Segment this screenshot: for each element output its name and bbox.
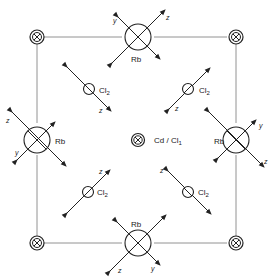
rb-top-label: Rb <box>131 55 142 64</box>
cl2-upper-right-z-label: z <box>174 105 179 112</box>
cl2-lower-right-z-label: z <box>159 167 164 174</box>
cl2-upper-left-label: Cl2 <box>99 86 111 96</box>
corner-atom-top-right <box>229 30 243 44</box>
rb-bottom-z-label: z <box>117 267 122 274</box>
cl2-upper-right-label: Cl2 <box>199 86 211 96</box>
rb-right-z-label: z <box>263 158 268 165</box>
cl2-upper-left-z-label: z <box>98 107 103 114</box>
rb-left-y-label: y <box>14 149 19 157</box>
rb-left-z-label: z <box>5 117 10 124</box>
crystal-diagram: Cd / Cl1 y z Rb Rb z y z y Rb Rb y z <box>0 0 272 280</box>
rb-top-z-label: z <box>165 14 170 21</box>
corner-atom-bottom-right <box>229 236 243 250</box>
center-atom-label: Cd / Cl1 <box>154 136 182 146</box>
rb-top-y-label: y <box>112 17 117 25</box>
rb-left-label: Rb <box>55 137 66 146</box>
rb-bottom-label: Rb <box>131 220 142 229</box>
corner-atom-bottom-left <box>30 236 44 250</box>
cl2-lower-right-label: Cl2 <box>198 188 210 198</box>
rb-right-label: Rb <box>214 137 225 146</box>
cl2-lower-left-z-label: z <box>98 168 103 175</box>
rb-bottom-y-label: y <box>150 265 155 273</box>
rb-right-y-label: y <box>258 122 263 130</box>
corner-atom-top-left <box>30 30 44 44</box>
cl2-lower-left-label: Cl2 <box>97 188 109 198</box>
center-atom-cd-cl1 <box>132 134 145 147</box>
